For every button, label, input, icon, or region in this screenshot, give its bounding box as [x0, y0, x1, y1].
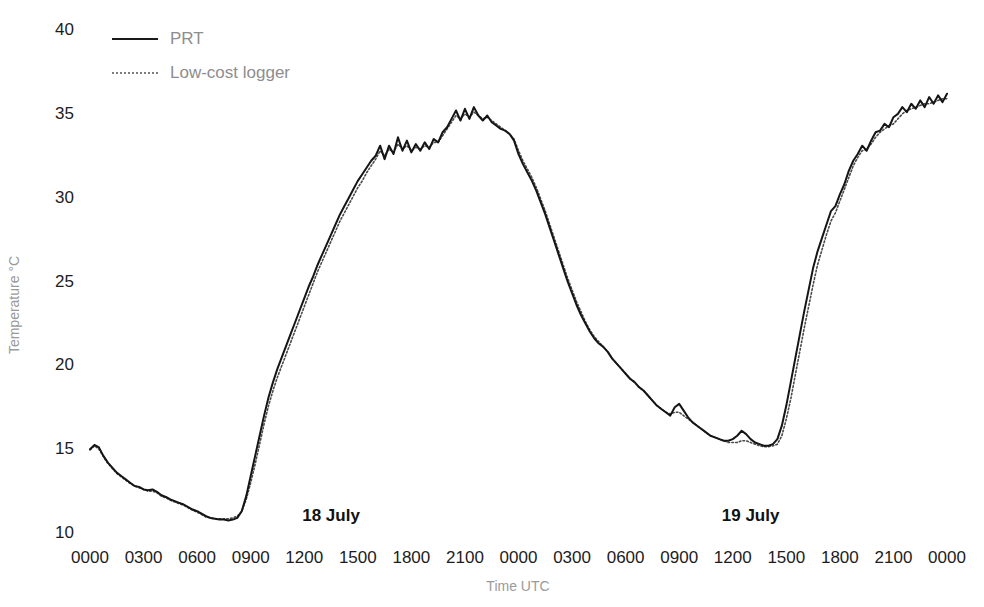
legend-label-low-cost-logger: Low-cost logger	[170, 63, 290, 83]
legend-item-low-cost-logger: Low-cost logger	[112, 56, 372, 90]
y-tick-35: 35	[30, 104, 74, 124]
x-tick-1: 0300	[125, 548, 163, 568]
chart-legend: PRT Low-cost logger	[112, 22, 372, 90]
x-tick-10: 0600	[607, 548, 645, 568]
series-line-prt	[90, 94, 947, 521]
y-tick-15: 15	[30, 439, 74, 459]
y-tick-10: 10	[30, 523, 74, 543]
y-axis-title: Temperature °C	[6, 256, 22, 354]
x-tick-9: 0300	[553, 548, 591, 568]
legend-item-prt: PRT	[112, 22, 372, 56]
y-tick-30: 30	[30, 188, 74, 208]
x-tick-14: 1800	[821, 548, 859, 568]
annotation-19-july: 19 July	[722, 506, 780, 526]
x-tick-16: 0000	[928, 548, 966, 568]
annotation-18-july: 18 July	[302, 506, 360, 526]
series-line-low-cost-logger	[90, 99, 947, 519]
y-tick-40: 40	[30, 20, 74, 40]
legend-swatch-dotted-line-icon	[112, 67, 158, 79]
x-tick-2: 0600	[178, 548, 216, 568]
x-tick-4: 1200	[285, 548, 323, 568]
temperature-time-series-chart: Temperature °C Time UTC 10152025303540 0…	[0, 0, 984, 607]
x-tick-13: 1500	[767, 548, 805, 568]
x-tick-12: 1200	[714, 548, 752, 568]
x-tick-5: 1500	[339, 548, 377, 568]
x-tick-7: 2100	[446, 548, 484, 568]
x-tick-15: 2100	[875, 548, 913, 568]
x-tick-8: 0000	[500, 548, 538, 568]
x-axis-title: Time UTC	[486, 578, 549, 594]
x-tick-6: 1800	[392, 548, 430, 568]
y-tick-20: 20	[30, 355, 74, 375]
y-tick-25: 25	[30, 272, 74, 292]
plot-area	[0, 0, 984, 607]
x-tick-0: 0000	[71, 548, 109, 568]
x-tick-3: 0900	[232, 548, 270, 568]
x-tick-11: 0900	[660, 548, 698, 568]
legend-label-prt: PRT	[170, 29, 204, 49]
legend-swatch-solid-line-icon	[112, 33, 158, 45]
